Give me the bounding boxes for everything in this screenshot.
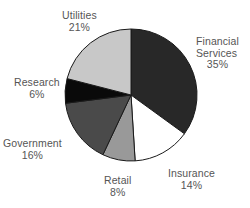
- pie-value-insurance: 14%: [168, 180, 215, 192]
- pie-label-government: Government 16%: [3, 138, 62, 161]
- pie-slice-group: [65, 29, 197, 161]
- pie-label-utilities-text: Utilities: [62, 10, 97, 22]
- pie-value-retail: 8%: [104, 187, 131, 199]
- pie-value-government: 16%: [3, 150, 62, 162]
- pie-label-utilities: Utilities 21%: [62, 10, 97, 33]
- pie-label-government-text: Government: [3, 138, 62, 150]
- pie-value-financial-services: 35%: [196, 59, 239, 71]
- pie-label-insurance-text: Insurance: [168, 168, 215, 180]
- pie-chart-figure: Financial Services 35% Insurance 14% Ret…: [0, 0, 250, 208]
- pie-label-financial-services-line1: Financial: [196, 36, 239, 48]
- pie-label-research-text: Research: [14, 77, 60, 89]
- pie-value-research: 6%: [14, 89, 60, 101]
- pie-label-retail-text: Retail: [104, 175, 131, 187]
- pie-label-retail: Retail 8%: [104, 175, 131, 198]
- pie-label-financial-services: Financial Services 35%: [196, 36, 239, 71]
- pie-label-research: Research 6%: [14, 77, 60, 100]
- pie-label-insurance: Insurance 14%: [168, 168, 215, 191]
- pie-value-utilities: 21%: [62, 22, 97, 34]
